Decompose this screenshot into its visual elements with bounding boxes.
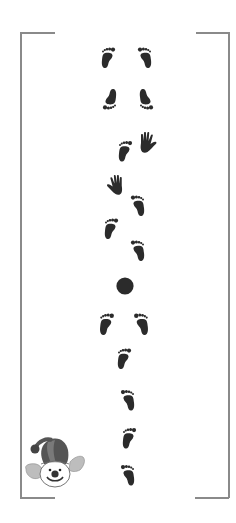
- footprint-right-icon: [133, 313, 150, 336]
- frame-top-right-corner: [196, 32, 229, 34]
- frame-bottom-right-corner: [195, 497, 229, 499]
- footprint-left-icon: [116, 348, 132, 370]
- footprint-left-icon: [102, 88, 118, 110]
- footprint-left-icon: [117, 140, 133, 163]
- frame-right-edge: [228, 32, 230, 498]
- frame-top-left-corner: [20, 32, 55, 34]
- footprint-left-icon: [121, 427, 137, 450]
- footprint-right-icon: [138, 88, 154, 110]
- footprint-right-icon: [130, 195, 146, 217]
- footprint-right-icon: [120, 464, 136, 487]
- footprint-right-icon: [137, 47, 153, 69]
- handprint-left-icon: [105, 174, 127, 196]
- handprint-right-icon: [136, 131, 158, 154]
- ball-icon: [116, 277, 134, 295]
- frame-bottom-left-corner: [20, 497, 55, 499]
- footprint-left-icon: [100, 47, 116, 69]
- footprint-right-icon: [130, 240, 146, 262]
- frame-left-edge: [20, 32, 22, 498]
- footprint-left-icon: [103, 218, 119, 240]
- clown-icon: [22, 430, 88, 488]
- footprint-right-icon: [120, 389, 136, 412]
- footprint-left-icon: [98, 313, 115, 336]
